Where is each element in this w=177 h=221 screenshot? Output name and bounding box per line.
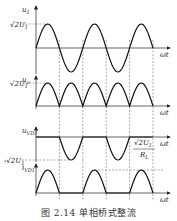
xlabel-uo: ωt	[160, 109, 169, 117]
waveforms	[36, 24, 153, 193]
figure-caption: 图 2.14 单相桥式整流	[0, 206, 177, 219]
ylabel-u1: u1	[22, 6, 30, 15]
level-label-den-iVD1: RL	[139, 151, 149, 160]
waveform-iVD1	[36, 170, 153, 193]
axes	[36, 6, 170, 196]
ylabel-iVD1: iVD1	[22, 164, 35, 173]
ylabel-uVD1: uVD1	[22, 127, 37, 136]
xlabel-u1: ωt	[160, 51, 169, 59]
xlabel-uVD1: ωt	[160, 140, 169, 148]
waveform-diagram: u1ωt√2U1uoωt√2U1uVD1ωt-√2U1iVD1ωt√2U1RL	[0, 0, 177, 221]
level-label-num-iVD1: √2U1	[134, 139, 152, 148]
xlabel-iVD1: ωt	[160, 196, 169, 204]
level-label-u1: √2U1	[10, 21, 28, 30]
waveform-uo	[36, 83, 153, 106]
